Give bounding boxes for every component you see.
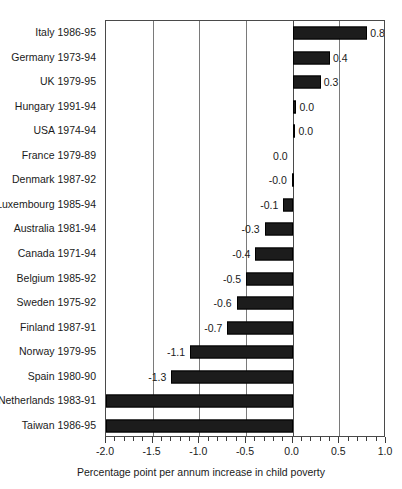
x-tick-label: 0.0 [284,445,299,457]
minor-tick [366,437,367,441]
category-label: Spain 1980-90 [28,363,101,388]
bar-value-label: 0.0 [295,126,313,137]
bar-row: 0.8 [106,21,384,46]
bar-row: 0.0 [106,119,384,144]
x-axis-tick-labels: -2.0-1.5-1.0-0.50.00.51.0 [0,445,402,459]
x-tick-label: -1.5 [143,445,161,457]
category-label: Canada 1971-94 [18,241,101,266]
minor-tick [208,437,209,441]
minor-tick [376,437,377,441]
bar-row: 0.0 [106,95,384,120]
minor-tick [226,437,227,441]
bar-value-label: -1.3 [148,371,169,382]
bar-value-label: 0.0 [273,151,291,162]
x-tick-label: -2.0 [96,445,114,457]
x-tick-label: 1.0 [378,445,393,457]
minor-tick [348,437,349,441]
bar [293,51,330,64]
bar-value-label: -0.7 [204,322,225,333]
minor-tick [282,437,283,441]
bar-row: -1.1 [106,340,384,365]
bar [293,27,368,40]
category-label: USA 1974-94 [34,118,101,143]
major-tick [152,437,153,443]
child-poverty-bar-chart: Italy 1986-95Germany 1973-94UK 1979-95Hu… [0,0,402,489]
category-label: Belgium 1985-92 [17,265,101,290]
bar-row: -0.6 [106,291,384,316]
bar [255,248,292,261]
bar-row: -0.0 [106,168,384,193]
minor-tick [142,437,143,441]
minor-tick [133,437,134,441]
x-axis-title: Percentage point per annum increase in c… [0,466,402,478]
bar-row: 0.4 [106,46,384,71]
minor-tick [236,437,237,441]
minor-tick [180,437,181,441]
category-label: Australia 1981-94 [14,216,101,241]
x-axis-ticks [105,437,385,444]
minor-tick [273,437,274,441]
bar [190,346,293,359]
bar [293,76,321,89]
bar-value-label: 0.0 [296,102,314,113]
category-label: UK 1979-95 [40,69,101,94]
minor-tick [301,437,302,441]
bar-row: 0.3 [106,70,384,95]
minor-tick [189,437,190,441]
bar-value-label: -0.6 [214,298,235,309]
bar-row: -0.5 [106,266,384,291]
bar-row: -4.2 [106,413,384,437]
bar [265,223,293,236]
minor-tick [264,437,265,441]
bar-value-label: -0.3 [242,224,263,235]
major-tick [292,437,293,443]
bar [246,272,293,285]
bar-value-label: 0.8 [367,28,385,39]
category-label: Denmark 1987-92 [12,167,101,192]
category-label: Finland 1987-91 [20,314,101,339]
bar-row: -2.6 [106,389,384,414]
category-label: Netherlands 1983-91 [0,388,101,413]
bar-row: -1.3 [106,364,384,389]
bar-value-label: -1.1 [167,347,188,358]
category-label: Taiwan 1986-95 [22,412,101,437]
minor-tick [320,437,321,441]
minor-tick [161,437,162,441]
category-label: Germany 1973-94 [11,45,101,70]
bar-value-label: 0.4 [330,53,348,64]
bar-value-label: -0.5 [223,273,244,284]
category-label: Italy 1986-95 [35,20,101,45]
bar [171,370,292,383]
minor-tick [170,437,171,441]
bar-row: -0.1 [106,193,384,218]
bar [227,321,292,334]
bar-value-label: -0.0 [269,175,290,186]
major-tick [105,437,106,443]
major-tick [245,437,246,443]
bar-row: -0.4 [106,242,384,267]
category-label: Hungary 1991-94 [15,94,101,119]
bar [106,395,293,408]
minor-tick [254,437,255,441]
bar-value-label: -0.1 [260,200,281,211]
bar [283,198,292,211]
minor-tick [310,437,311,441]
bar-row: -0.3 [106,217,384,242]
minor-tick [329,437,330,441]
x-tick-label: 0.5 [331,445,346,457]
minor-tick [357,437,358,441]
plot-area: 0.80.40.30.00.00.0-0.0-0.1-0.3-0.4-0.5-0… [105,20,385,437]
bar [237,297,293,310]
bar-row: -0.7 [106,315,384,340]
category-axis-labels: Italy 1986-95Germany 1973-94UK 1979-95Hu… [0,20,101,437]
category-label: Sweden 1975-92 [17,290,101,315]
bar-value-label: 0.3 [321,77,339,88]
bar [292,174,294,187]
x-tick-label: -0.5 [236,445,254,457]
major-tick [338,437,339,443]
minor-tick [217,437,218,441]
x-tick-label: -1.0 [189,445,207,457]
major-tick [385,437,386,443]
major-tick [198,437,199,443]
bar-value-label: -0.4 [232,249,253,260]
